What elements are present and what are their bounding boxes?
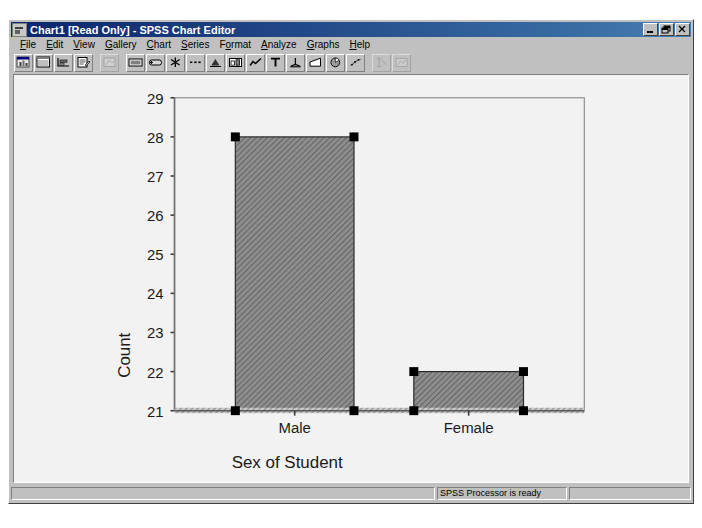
- titles-icon[interactable]: [74, 54, 93, 72]
- y-tick-label: 23: [147, 325, 164, 341]
- chart-canvas-pane[interactable]: 29 28 27 26 25 24 23 22 21 Count: [13, 74, 689, 483]
- spin-chart-icon[interactable]: [100, 54, 119, 72]
- y-tick-label: 29: [147, 91, 164, 107]
- menu-item-series[interactable]: Series: [176, 38, 214, 52]
- chart-window-icon: [12, 23, 27, 37]
- bar-male[interactable]: [235, 137, 354, 411]
- menu-item-gallery[interactable]: Gallery: [100, 38, 142, 52]
- minimize-button[interactable]: [643, 23, 658, 36]
- scatter-chart-icon[interactable]: [346, 54, 365, 72]
- menu-item-view[interactable]: View: [68, 38, 100, 52]
- status-bar: SPSS Processor is ready: [11, 486, 691, 501]
- area-chart-icon[interactable]: [306, 54, 325, 72]
- close-button[interactable]: [675, 23, 690, 36]
- bar-label-style-icon[interactable]: [146, 54, 165, 72]
- menu-item-file[interactable]: File: [15, 38, 41, 52]
- marker-style-icon[interactable]: [206, 54, 225, 72]
- axis-scale-icon[interactable]: [286, 54, 305, 72]
- x-axis-title[interactable]: Sex of Student: [232, 453, 343, 472]
- menu-item-help[interactable]: Help: [344, 38, 375, 52]
- screenshot-root: Chart1 [Read Only] - SPSS Chart Editor: [0, 0, 702, 528]
- new-chart-window-icon[interactable]: [14, 54, 33, 72]
- bar-chart-icon[interactable]: [226, 54, 245, 72]
- bar-style-icon[interactable]: [126, 54, 145, 72]
- y-axis-title[interactable]: Count: [115, 332, 134, 377]
- x-tick-label-female: Female: [444, 421, 494, 437]
- line-chart-icon[interactable]: [246, 54, 265, 72]
- handle-female-top-left[interactable]: [409, 367, 418, 376]
- handle-female-top-right[interactable]: [519, 367, 528, 376]
- y-tick-label: 21: [147, 404, 164, 420]
- menu-item-edit[interactable]: Edit: [41, 38, 68, 52]
- chart-options-icon[interactable]: [34, 54, 53, 72]
- y-tick-label: 28: [147, 130, 164, 146]
- bar-female[interactable]: [414, 372, 524, 411]
- pie-chart-icon[interactable]: [326, 54, 345, 72]
- y-tick-label: 25: [147, 247, 164, 263]
- explode-slice-icon[interactable]: [372, 54, 391, 72]
- spss-chart-editor-window: Chart1 [Read Only] - SPSS Chart Editor: [8, 19, 694, 504]
- x-tick-label-male: Male: [278, 421, 310, 437]
- bar-chart[interactable]: 29 28 27 26 25 24 23 22 21 Count: [14, 75, 688, 482]
- y-tick-label: 22: [147, 365, 164, 381]
- axis-properties-icon[interactable]: [54, 54, 73, 72]
- menu-item-graphs[interactable]: Graphs: [302, 38, 345, 52]
- fill-pattern-icon[interactable]: [166, 54, 185, 72]
- toolbar: [11, 52, 691, 73]
- line-style-icon[interactable]: [186, 54, 205, 72]
- handle-female-bottom-left[interactable]: [409, 406, 418, 415]
- y-tick-label: 26: [147, 208, 164, 224]
- handle-male-top-left[interactable]: [231, 132, 240, 141]
- y-axis-tick-labels: 29 28 27 26 25 24 23 22 21: [147, 91, 164, 420]
- status-message: SPSS Processor is ready: [437, 487, 567, 500]
- menu-item-chart[interactable]: Chart: [142, 38, 176, 52]
- handle-male-bottom-left[interactable]: [231, 406, 240, 415]
- window-controls: [643, 23, 691, 36]
- title-bar[interactable]: Chart1 [Read Only] - SPSS Chart Editor: [11, 22, 691, 37]
- menu-item-analyze[interactable]: Analyze: [256, 38, 302, 52]
- text-style-icon[interactable]: [266, 54, 285, 72]
- restore-button[interactable]: [659, 23, 674, 36]
- y-tick-label: 24: [147, 286, 164, 302]
- swap-axes-icon[interactable]: [392, 54, 411, 72]
- y-tick-label: 27: [147, 169, 164, 185]
- menu-item-format[interactable]: Format: [214, 38, 256, 52]
- handle-male-top-right[interactable]: [350, 132, 359, 141]
- status-pane-right: [569, 487, 691, 500]
- window-title: Chart1 [Read Only] - SPSS Chart Editor: [30, 24, 235, 36]
- handle-male-bottom-right[interactable]: [350, 406, 359, 415]
- status-pane-left: [11, 487, 435, 500]
- handle-female-bottom-right[interactable]: [519, 406, 528, 415]
- menu-bar: File Edit View Gallery Chart Series Form…: [11, 38, 691, 52]
